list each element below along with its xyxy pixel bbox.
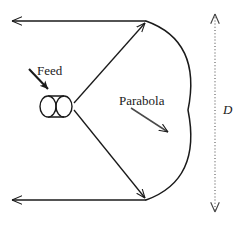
parabolic-antenna-figure: Feed Parabola D [0, 0, 239, 225]
diameter-label: D [223, 103, 232, 116]
feed-label: Feed [37, 64, 62, 77]
ray-lower [74, 110, 145, 198]
figure-drawing-canvas [0, 0, 239, 225]
parabola-pointer-arrow [131, 108, 168, 132]
parabola-curve [146, 21, 191, 200]
parabola-label: Parabola [119, 94, 164, 107]
feed-horn [40, 96, 72, 117]
ray-upper [74, 23, 145, 103]
